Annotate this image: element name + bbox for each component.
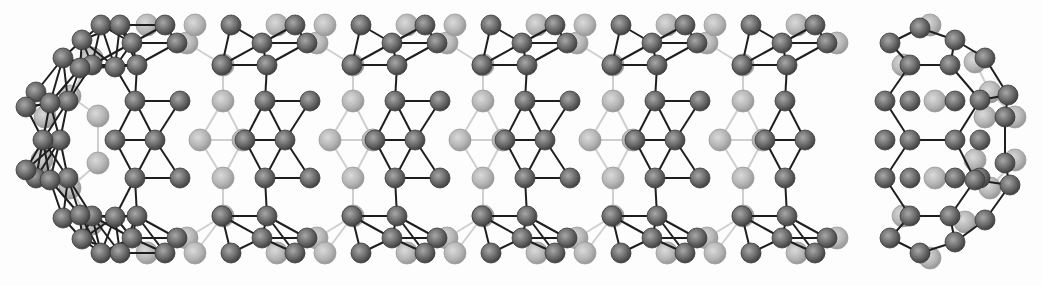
front-carbon-atom bbox=[127, 206, 147, 226]
cap-front-carbon-atom bbox=[875, 168, 895, 188]
front-carbon-atom bbox=[775, 91, 795, 111]
front-carbon-atom bbox=[387, 206, 407, 226]
cap-front-carbon-atom bbox=[945, 168, 965, 188]
cap-front-carbon-atom bbox=[875, 130, 895, 150]
cap-front-carbon-atom bbox=[965, 170, 985, 190]
cap-front-carbon-atom bbox=[995, 107, 1015, 127]
front-carbon-atom bbox=[645, 91, 665, 111]
front-carbon-atom bbox=[110, 243, 130, 263]
front-carbon-atom bbox=[512, 33, 532, 53]
cap-front-carbon-atom bbox=[975, 48, 995, 68]
front-carbon-atom bbox=[382, 33, 402, 53]
front-carbon-atom bbox=[427, 33, 447, 53]
front-carbon-atom bbox=[690, 168, 710, 188]
front-carbon-atom bbox=[777, 55, 797, 75]
front-carbon-atom bbox=[515, 91, 535, 111]
back-carbon-atom bbox=[472, 90, 494, 112]
front-carbon-atom bbox=[647, 206, 667, 226]
front-carbon-atom bbox=[58, 168, 78, 188]
back-carbon-atom bbox=[319, 129, 341, 151]
front-carbon-atom bbox=[481, 243, 501, 263]
front-carbon-atom bbox=[732, 206, 752, 226]
cap-front-carbon-atom bbox=[945, 91, 965, 111]
front-carbon-atom bbox=[53, 48, 73, 68]
back-carbon-atom bbox=[87, 105, 109, 127]
cap-front-carbon-atom bbox=[975, 210, 995, 230]
front-carbon-atom bbox=[642, 33, 662, 53]
cap-front-carbon-atom bbox=[940, 206, 960, 226]
front-carbon-atom bbox=[255, 168, 275, 188]
front-carbon-atom bbox=[382, 228, 402, 248]
cap-front-carbon-atom bbox=[900, 55, 920, 75]
front-carbon-atom bbox=[155, 15, 175, 35]
front-carbon-atom bbox=[560, 91, 580, 111]
front-carbon-atom bbox=[415, 15, 435, 35]
front-carbon-atom bbox=[611, 243, 631, 263]
front-carbon-atom bbox=[275, 130, 295, 150]
back-carbon-atom bbox=[87, 152, 109, 174]
front-carbon-atom bbox=[110, 15, 130, 35]
cap-front-carbon-atom bbox=[900, 206, 920, 226]
cap-back-carbon-atom bbox=[924, 90, 946, 112]
front-carbon-atom bbox=[221, 243, 241, 263]
front-carbon-atom bbox=[16, 160, 36, 180]
front-carbon-atom bbox=[16, 97, 36, 117]
front-carbon-atom bbox=[777, 206, 797, 226]
front-carbon-atom bbox=[805, 15, 825, 35]
front-carbon-atom bbox=[70, 205, 90, 225]
front-carbon-atom bbox=[557, 33, 577, 53]
front-carbon-atom bbox=[212, 55, 232, 75]
cap-front-carbon-atom bbox=[900, 130, 920, 150]
front-carbon-atom bbox=[127, 55, 147, 75]
front-carbon-atom bbox=[481, 15, 501, 35]
front-carbon-atom bbox=[805, 243, 825, 263]
front-carbon-atom bbox=[212, 206, 232, 226]
front-carbon-atom bbox=[675, 15, 695, 35]
front-carbon-atom bbox=[257, 55, 277, 75]
capped-nanotube-side-view bbox=[0, 0, 1042, 286]
front-carbon-atom bbox=[125, 168, 145, 188]
back-carbon-atom bbox=[579, 129, 601, 151]
back-carbon-atom bbox=[472, 167, 494, 189]
front-carbon-atom bbox=[40, 93, 60, 113]
front-carbon-atom bbox=[155, 243, 175, 263]
front-carbon-atom bbox=[385, 168, 405, 188]
front-carbon-atom bbox=[675, 243, 695, 263]
back-carbon-atom bbox=[189, 129, 211, 151]
back-carbon-atom bbox=[449, 129, 471, 151]
back-carbon-atom bbox=[602, 167, 624, 189]
front-carbon-atom bbox=[297, 33, 317, 53]
front-carbon-atom bbox=[105, 130, 125, 150]
front-carbon-atom bbox=[235, 130, 255, 150]
front-carbon-atom bbox=[535, 130, 555, 150]
cap-front-carbon-atom bbox=[1000, 175, 1020, 195]
front-carbon-atom bbox=[560, 168, 580, 188]
front-carbon-atom bbox=[645, 168, 665, 188]
cap-back-carbon-atom bbox=[964, 149, 986, 171]
cap-front-carbon-atom bbox=[945, 232, 965, 252]
front-carbon-atom bbox=[625, 130, 645, 150]
front-carbon-atom bbox=[512, 228, 532, 248]
front-carbon-atom bbox=[285, 243, 305, 263]
front-carbon-atom bbox=[122, 33, 142, 53]
front-carbon-atom bbox=[611, 15, 631, 35]
back-carbon-atom bbox=[732, 90, 754, 112]
front-carbon-atom bbox=[72, 30, 92, 50]
cap-front-carbon-atom bbox=[995, 153, 1015, 173]
front-carbon-atom bbox=[351, 15, 371, 35]
front-carbon-atom bbox=[772, 228, 792, 248]
front-carbon-atom bbox=[741, 243, 761, 263]
front-carbon-atom bbox=[145, 130, 165, 150]
front-carbon-atom bbox=[125, 91, 145, 111]
front-carbon-atom bbox=[495, 130, 515, 150]
cap-front-carbon-atom bbox=[880, 228, 900, 248]
cap-front-carbon-atom bbox=[900, 168, 920, 188]
cap-front-carbon-atom bbox=[945, 30, 965, 50]
front-carbon-atom bbox=[300, 168, 320, 188]
front-carbon-atom bbox=[772, 33, 792, 53]
front-carbon-atom bbox=[795, 130, 815, 150]
back-carbon-atom bbox=[314, 14, 336, 36]
back-carbon-atom bbox=[212, 167, 234, 189]
cap-front-carbon-atom bbox=[970, 130, 990, 150]
front-carbon-atom bbox=[430, 91, 450, 111]
